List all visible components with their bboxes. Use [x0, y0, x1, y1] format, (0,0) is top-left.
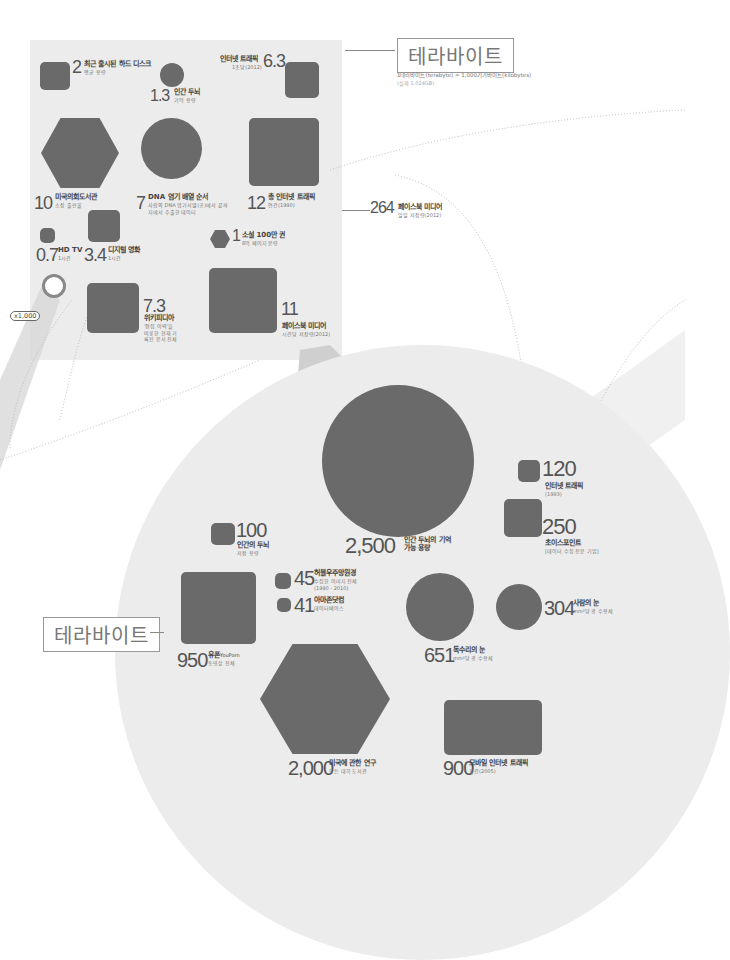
total-internet-traffic-value: 12 [247, 194, 265, 212]
internet-1993-value: 120 [542, 458, 576, 480]
brain-storage-square [211, 523, 235, 545]
brain-memory-sub: 기억 용량 [174, 97, 196, 104]
hdtv-square [40, 228, 55, 243]
digital-film-label: 디지털 영화 [108, 246, 140, 254]
library-congress-value: 10 [34, 194, 52, 212]
human-eye-circle [496, 584, 542, 630]
facebook-hourly-label: 페이스북 미디어 [282, 322, 326, 330]
novels-sub: 8억 페이지 분량 [242, 240, 278, 247]
mobile-traffic-label: 모바일 인터넷 트래픽 [469, 759, 528, 767]
magnify-source-circle [42, 274, 66, 298]
youporn-square [181, 572, 256, 644]
dna-value: 7 [136, 194, 145, 212]
hubble-value: 45 [294, 568, 314, 588]
us-research-value: 2,000 [288, 758, 333, 778]
youporn-value: 950 [177, 650, 207, 670]
digital-film-value: 3.4 [84, 246, 106, 264]
library-congress-label: 미국의회도서관 [55, 193, 97, 201]
amazon-square [277, 598, 291, 612]
hdtv-label: HD TV [58, 246, 82, 254]
wikipedia-sub: '편집 이력'을 비롯한 현재 기록된 문서 전체 [144, 323, 179, 343]
wikipedia-value: 7.3 [143, 297, 165, 315]
wikipedia-label: 위키피디아 [144, 314, 174, 322]
brain-memory-circle [160, 63, 184, 87]
facebook-hourly-value: 11 [281, 300, 298, 318]
hubble-square [275, 573, 291, 589]
brain-capacity-value: 2,500 [345, 535, 395, 557]
brain-memory-label: 인간 두뇌 [174, 88, 200, 96]
digital-film-square [88, 210, 120, 242]
mobile-traffic-rect [444, 700, 542, 755]
human-eye-value: 304 [544, 598, 574, 618]
choicepoint-label: 초이스포인트 [545, 539, 581, 547]
digital-film-sub: 1시간 [108, 255, 121, 262]
human-eye-sub: mm²당 광 수용체 [573, 608, 613, 615]
human-eye-label: 사람의 눈 [573, 599, 599, 607]
amazon-label: 아마존닷컴 [314, 596, 344, 604]
facebook-hourly-square [209, 268, 277, 333]
choicepoint-sub: [데이터 수집 전문 기업] [545, 548, 599, 555]
library-congress-sub: 소장 출판물 [55, 202, 82, 209]
facebook-hourly-sub: 시간당 저장량(2012) [282, 331, 330, 338]
hard-disk-square [40, 62, 70, 90]
us-research-sub: 모든 대학 도서관 [329, 768, 367, 775]
eagle-eye-sub: mm²당 광 수용체 [453, 655, 493, 662]
internet-1993-square [518, 460, 540, 482]
hard-disk-sub: 평균 용량 [84, 69, 106, 76]
total-internet-traffic-square [249, 118, 319, 186]
dna-sub: 사람의 DNA 염기서열(공)에서 끝까지에서 추출한 데이터 [148, 202, 228, 215]
eagle-eye-label: 독수리의 눈 [453, 646, 485, 654]
hubble-label: 허블우주망원경 [314, 569, 356, 577]
total-internet-traffic-label: 총 인터넷 트래픽 [268, 193, 315, 201]
title-definition: 1테라바이트(terabyte) ≈ 1,000기가바이트(kilobytes) [397, 72, 531, 79]
internet-traffic-sec-square [285, 62, 319, 98]
brain-memory-value: 1.3 [150, 88, 169, 104]
brain-storage-sub: 저장 용량 [237, 550, 259, 557]
brain-capacity-label: 인간 두뇌의 기억 가능 용량 [404, 536, 454, 553]
facebook-daily-sub: 일일 저장량(2012) [398, 212, 441, 219]
amazon-sub: 데이터베이스 [314, 605, 344, 612]
brain-storage-value: 100 [236, 520, 266, 540]
wikipedia-square [87, 283, 139, 333]
internet-traffic-sec-value: 6.3 [263, 52, 285, 70]
eagle-eye-circle [406, 573, 474, 641]
choicepoint-square [504, 499, 542, 537]
youporn-sub: 동영상 전체 [208, 660, 235, 667]
title-leader-line [345, 50, 395, 51]
brain-storage-label: 인간의 두뇌 [237, 541, 269, 549]
hard-disk-label: 최근 출시된 하드 디스크 [84, 60, 151, 68]
mobile-traffic-sub: 월간(2005) [469, 768, 496, 775]
choicepoint-value: 250 [542, 516, 576, 538]
hdtv-value: 0.7 [36, 246, 58, 264]
novels-label: 소설 100만 권 [242, 231, 286, 239]
multiplier-badge: x1,000 [10, 311, 40, 321]
brain-capacity-circle [322, 385, 474, 537]
us-research-label: 미국에 관한 연구 [329, 759, 376, 767]
dna-circle [141, 118, 202, 179]
internet-traffic-sec-sub: 1초당(2012) [232, 64, 262, 71]
internet-1993-sub: (1993) [545, 491, 562, 498]
total-internet-traffic-sub: 연간(1990) [268, 202, 295, 209]
facebook-daily-value: 264 [370, 200, 394, 216]
lower-title-leader-line [150, 632, 164, 633]
internet-traffic-sec-label: 인터넷 트래픽 [220, 55, 258, 63]
hard-disk-value: 2 [72, 58, 81, 76]
youporn-label: 유폰YouPorn [208, 651, 240, 659]
novels-value: 1 [232, 228, 240, 244]
facebook-daily-label: 페이스북 미디어 [398, 203, 442, 211]
hdtv-sub: 1시간 [58, 255, 71, 262]
dna-label: DNA 염기 배열 순서 [148, 193, 208, 201]
title-note: (실제 1,024GB) [397, 80, 434, 87]
eagle-eye-value: 651 [424, 645, 454, 665]
title-terabyte: 테라바이트 [397, 38, 514, 73]
hubble-sub: 수집한 이미지 전체 (1990 - 2010) [314, 578, 369, 591]
amazon-value: 41 [294, 595, 314, 615]
internet-1993-label: 인터넷 트래픽 [545, 482, 583, 490]
facebook-daily-leader-line [342, 210, 370, 211]
title-terabyte-lower: 테라바이트 [43, 617, 160, 652]
